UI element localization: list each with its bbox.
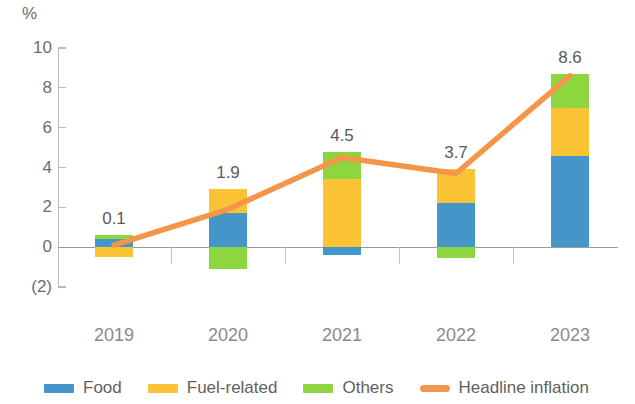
y-tick-label: 0 <box>16 237 52 257</box>
bar-segment <box>209 247 247 269</box>
bar-segment <box>437 169 475 203</box>
x-tick <box>171 247 172 264</box>
y-axis-unit-label: % <box>22 4 38 24</box>
x-axis-label: 2019 <box>94 325 134 346</box>
y-tick-label: 10 <box>16 38 52 58</box>
x-axis-label: 2022 <box>436 325 476 346</box>
bar-segment <box>437 203 475 247</box>
bar-segment <box>95 235 133 239</box>
plot-area <box>58 48 618 287</box>
x-axis-label: 2020 <box>208 325 248 346</box>
y-tick-label: 4 <box>16 158 52 178</box>
bar-segment <box>551 156 589 248</box>
bar-segment <box>437 247 475 258</box>
legend-label: Food <box>83 378 122 398</box>
bar-segment <box>323 247 361 255</box>
x-axis-label: 2023 <box>550 325 590 346</box>
bar-value-label: 1.9 <box>216 163 240 183</box>
legend-item[interactable]: Fuel-related <box>148 378 278 398</box>
y-tick-label: 8 <box>16 78 52 98</box>
bar-segment <box>551 74 589 108</box>
x-tick <box>399 247 400 264</box>
bar-value-label: 0.1 <box>102 209 126 229</box>
y-tick-label: (2) <box>16 277 52 297</box>
bar-segment <box>95 247 133 257</box>
legend-item[interactable]: Food <box>44 378 122 398</box>
legend-swatch-icon <box>303 384 333 393</box>
bar-segment <box>323 152 361 180</box>
legend-label: Headline inflation <box>459 378 589 398</box>
bar-segment <box>323 179 361 247</box>
chart-legend: FoodFuel-relatedOthersHeadline inflation <box>44 378 615 398</box>
bar-segment <box>95 239 133 247</box>
y-tick-label: 2 <box>16 197 52 217</box>
x-tick <box>513 247 514 264</box>
legend-label: Fuel-related <box>187 378 278 398</box>
legend-swatch-icon <box>44 384 74 393</box>
bar-value-label: 3.7 <box>444 143 468 163</box>
legend-item[interactable]: Others <box>303 378 393 398</box>
bar-segment <box>209 189 247 213</box>
bar-value-label: 8.6 <box>558 48 582 68</box>
x-tick <box>285 247 286 264</box>
bar-value-label: 4.5 <box>330 126 354 146</box>
legend-item[interactable]: Headline inflation <box>420 378 589 398</box>
y-tick-label: 6 <box>16 118 52 138</box>
legend-swatch-icon <box>148 384 178 393</box>
bar-segment <box>209 213 247 247</box>
bar-segment <box>551 108 589 156</box>
legend-line-icon <box>420 385 450 392</box>
inflation-contribution-chart: % 1086420(2) 0.11.94.53.78.6 20192020202… <box>0 0 635 404</box>
legend-label: Others <box>342 378 393 398</box>
x-axis-label: 2021 <box>322 325 362 346</box>
